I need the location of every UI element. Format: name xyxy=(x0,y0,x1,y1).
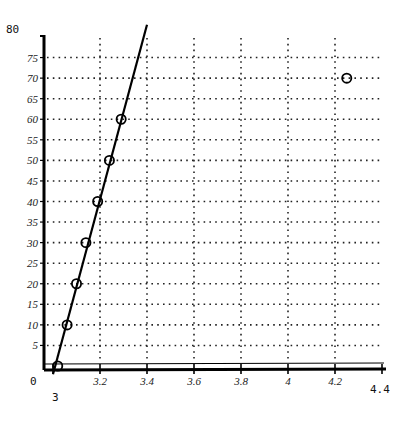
data-series xyxy=(53,25,351,375)
axes xyxy=(40,35,386,370)
y-tick-label: 10 xyxy=(27,319,39,331)
y-tick-label: 25 xyxy=(27,257,39,269)
y-tick-label: 55 xyxy=(27,134,39,146)
y-tick-label: 75 xyxy=(27,52,39,64)
x-baseline xyxy=(44,363,384,364)
x-tick-label: 3.6 xyxy=(186,375,201,387)
x-tick-label: 4.2 xyxy=(328,375,342,387)
y-tick-labels: 51015202530354045505560657075 xyxy=(26,52,39,352)
x-axis-end-label: 4.4 xyxy=(370,383,390,396)
x-axis-line xyxy=(44,369,386,370)
y-tick-label: 20 xyxy=(27,278,39,290)
x-tick-label: 4 xyxy=(285,375,291,387)
y-tick-label: 15 xyxy=(27,298,39,310)
y-tick-label: 40 xyxy=(27,196,39,208)
y-tick-label: 35 xyxy=(26,216,39,228)
scatter-chart: 51015202530354045505560657075 3.23.43.63… xyxy=(0,0,407,421)
x-tick-label: 3.8 xyxy=(233,375,248,387)
fit-line xyxy=(53,25,147,375)
y-axis-max-label: 80 xyxy=(6,23,19,36)
y-tick-label: 70 xyxy=(27,72,39,84)
y-tick-label: 5 xyxy=(33,339,39,351)
y-tick-label: 50 xyxy=(27,154,39,166)
grid-lines xyxy=(40,38,382,374)
y-tick-label: 45 xyxy=(27,175,39,187)
x-tick-label: 3.4 xyxy=(139,375,154,387)
x-axis-start-label: 3 xyxy=(52,391,59,404)
y-tick-label: 30 xyxy=(26,237,39,249)
x-tick-labels: 3.23.43.63.844.2 xyxy=(92,375,342,387)
y-tick-label: 65 xyxy=(27,93,39,105)
x-origin-label: 0 xyxy=(30,375,37,388)
y-tick-label: 60 xyxy=(27,113,39,125)
x-tick-label: 3.2 xyxy=(92,375,107,387)
